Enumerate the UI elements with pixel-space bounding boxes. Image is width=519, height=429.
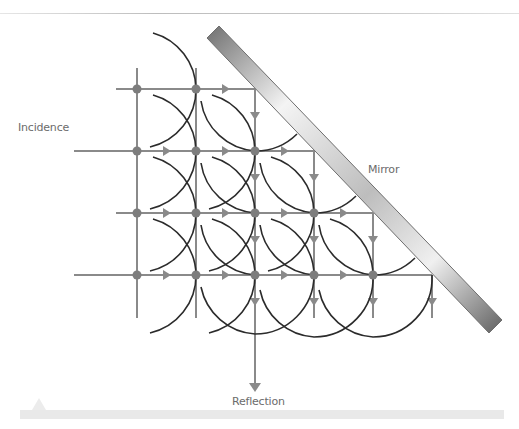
- mirror: [207, 26, 502, 333]
- vertical-arrowheads: [249, 112, 437, 392]
- caption-pointer-icon: [32, 398, 46, 410]
- caption-band: [20, 410, 504, 419]
- reflection-diagram: [0, 0, 519, 429]
- reflection-label: Reflection: [232, 395, 285, 408]
- mirror-label: Mirror: [368, 163, 399, 176]
- incidence-label: Incidence: [18, 121, 69, 134]
- incident-rays: [74, 89, 432, 275]
- wavefront-arcs: [150, 33, 432, 337]
